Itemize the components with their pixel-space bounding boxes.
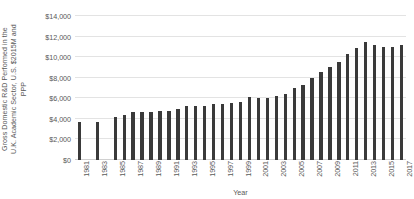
bar: [275, 96, 278, 160]
plot-area: [75, 16, 406, 160]
bar: [257, 98, 260, 160]
y-axis-tick-label: $2,000: [49, 135, 71, 144]
bar: [158, 111, 161, 160]
x-axis-tick-label: 1987: [136, 161, 145, 177]
y-axis-tick-labels: $0$2,000$4,000$6,000$8,000$10,000$12,000…: [30, 0, 74, 166]
x-axis-tick-label: 2005: [297, 161, 306, 177]
x-axis-tick-label: 2011: [351, 161, 360, 176]
bar: [212, 104, 215, 160]
bar: [355, 48, 358, 160]
bar: [266, 98, 269, 160]
bar: [373, 45, 376, 160]
bar: [140, 112, 143, 160]
x-axis-tick-label: 1985: [118, 161, 127, 177]
bar: [230, 103, 233, 160]
bar: [194, 106, 197, 161]
bar: [301, 85, 304, 160]
bar: [328, 67, 331, 160]
y-axis-tick-label: $4,000: [49, 114, 71, 123]
bar: [310, 78, 313, 160]
x-axis-tick-label: 1995: [208, 161, 217, 177]
x-axis-tick-label: 1993: [190, 161, 199, 177]
bar: [284, 94, 287, 160]
y-axis-tick-label: $14,000: [45, 12, 71, 21]
x-axis-tick-label: 1983: [100, 161, 109, 177]
bar: [167, 111, 170, 160]
y-axis-title-line-1: Gross Domestic R&D Performed in the: [1, 24, 10, 154]
x-axis-tick-label: 1991: [172, 161, 181, 177]
bar: [78, 122, 81, 160]
y-axis-tick-label: $0: [63, 156, 71, 165]
y-axis-tick-label: $10,000: [45, 53, 71, 62]
bar: [400, 45, 403, 160]
bar: [114, 117, 117, 160]
bar: [319, 72, 322, 160]
bar: [149, 112, 152, 160]
y-axis-title-line-3: PPP: [20, 24, 29, 154]
bar: [382, 47, 385, 160]
y-axis-tick-label: $12,000: [45, 32, 71, 41]
x-axis-tick-label: 2001: [261, 161, 270, 177]
bar: [131, 112, 134, 160]
bar-series: [75, 16, 406, 160]
x-axis-tick-label: 2013: [369, 161, 378, 177]
x-axis-tick-labels: 1981198319851987198919911993199519971999…: [75, 161, 406, 189]
bar: [248, 97, 251, 160]
x-axis-tick-label: 1989: [154, 161, 163, 177]
x-axis-tick-label: 2007: [315, 161, 324, 177]
bar: [346, 54, 349, 160]
bar: [203, 106, 206, 161]
x-axis-tick-label: 2015: [387, 161, 396, 177]
y-axis-tick-label: $6,000: [49, 94, 71, 103]
bar: [123, 115, 126, 160]
y-axis-title: Gross Domestic R&D Performed in the U.K.…: [0, 0, 30, 178]
bar: [337, 62, 340, 160]
bar: [185, 106, 188, 160]
x-axis-tick-label: 2009: [333, 161, 342, 177]
x-axis-tick-label: 1997: [226, 161, 235, 177]
bar: [293, 88, 296, 160]
x-axis-tick-label: 2017: [405, 161, 414, 177]
y-axis-tick-label: $8,000: [49, 73, 71, 82]
x-axis-tick-label: 2003: [279, 161, 288, 177]
bar: [391, 47, 394, 160]
x-axis-tick-label: 1981: [82, 161, 91, 177]
y-axis-title-line-2: U.K. Academic Sector, U.S. $2015M and: [10, 24, 19, 154]
x-axis-tick-label: 1999: [244, 161, 253, 177]
bar: [221, 104, 224, 160]
bar: [176, 109, 179, 160]
bar: [239, 102, 242, 160]
bar: [364, 42, 367, 160]
x-axis-title: Year: [75, 188, 406, 197]
bar: [96, 122, 99, 160]
